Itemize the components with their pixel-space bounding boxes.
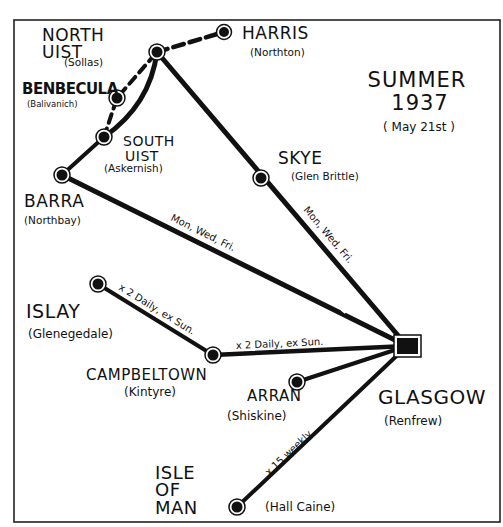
label-campbeltown-sub: (Kintyre)	[124, 385, 176, 399]
label-north-uist-sub: (Sollas)	[64, 56, 103, 68]
title-season: SUMMER	[368, 68, 467, 92]
label-skye: SKYE	[278, 148, 322, 168]
node-skye[interactable]	[253, 170, 269, 186]
label-islay-sub: (Glenegedale)	[28, 327, 113, 341]
title-date: ( May 21st )	[383, 120, 455, 134]
label-south-uist-sub: (Askernish)	[104, 162, 163, 174]
label-arran: ARRAN	[247, 387, 301, 405]
line-gap	[343, 308, 347, 311]
label-benbecula: BENBECULA	[22, 80, 119, 98]
label-south-uist-1: SOUTH	[123, 133, 175, 149]
node-north-uist[interactable]	[149, 44, 165, 60]
title-year: 1937	[391, 91, 448, 115]
line-gap	[345, 283, 347, 286]
label-skye-sub: (Glen Brittle)	[291, 170, 359, 182]
label-barra: BARRA	[24, 191, 84, 211]
label-isle-of-man-3: MAN	[155, 497, 198, 518]
label-barra-sub: (Northbay)	[24, 214, 81, 226]
node-campbeltown[interactable]	[205, 347, 221, 363]
label-arran-sub: (Shiskine)	[227, 409, 286, 423]
label-glasgow: GLASGOW	[378, 385, 486, 409]
node-islay[interactable]	[90, 276, 106, 292]
node-barra[interactable]	[54, 167, 70, 183]
label-isle-of-man-sub: (Hall Caine)	[265, 500, 335, 514]
label-harris-sub: (Northton)	[250, 46, 305, 58]
label-campbeltown: CAMPBELTOWN	[86, 366, 207, 384]
node-isle-of-man[interactable]	[229, 499, 245, 515]
route-map: SUMMER 1937 ( May 21st ) HARRIS (Northto…	[0, 0, 503, 527]
node-harris[interactable]	[217, 25, 232, 40]
label-harris: HARRIS	[242, 23, 309, 43]
label-benbecula-sub: (Balivanich)	[27, 99, 77, 109]
label-islay: ISLAY	[26, 300, 80, 322]
node-glasgow[interactable]	[394, 335, 421, 357]
node-south-uist[interactable]	[96, 129, 112, 145]
label-glasgow-sub: (Renfrew)	[384, 414, 442, 428]
